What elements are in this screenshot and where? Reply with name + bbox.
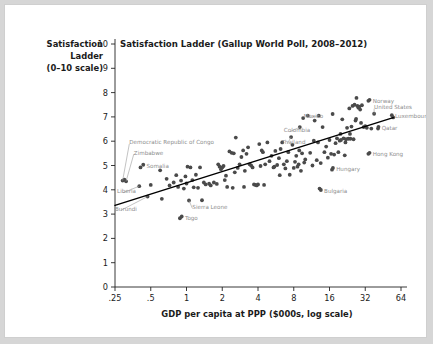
annotation-marker-togo (180, 215, 184, 219)
data-point (222, 164, 226, 168)
x-tick-label-.25: .25 (108, 293, 121, 303)
data-point (348, 132, 352, 136)
annotation-marker-luxembourg (390, 113, 394, 117)
data-point (319, 161, 323, 165)
chart-title: Satisfaction Ladder (Gallup World Poll, … (120, 39, 367, 49)
data-point (198, 166, 202, 170)
annotation-sierra-leone: Sierra Leone (192, 204, 228, 210)
data-point (149, 183, 153, 187)
data-point (352, 137, 356, 141)
annotation-marker-bulgaria (319, 188, 323, 192)
data-point (277, 156, 281, 160)
data-point (294, 154, 298, 158)
y-tick-label-0: 0 (103, 282, 108, 292)
data-point (165, 177, 169, 181)
data-point (355, 96, 359, 100)
data-point (332, 153, 336, 157)
data-point (347, 107, 351, 111)
annotation-marker-hong-kong (368, 151, 372, 155)
annotation-democratic-republic-of-congo: Democratic Republic of Congo (129, 139, 214, 146)
x-tick-label-16: 16 (324, 293, 334, 303)
data-point (300, 151, 304, 155)
data-point (323, 150, 327, 154)
data-point (262, 183, 266, 187)
data-point (242, 185, 246, 189)
y-tick-label-7: 7 (103, 112, 108, 122)
annotation-somalia: Somalia (146, 163, 168, 169)
data-point (200, 198, 204, 202)
data-point (257, 142, 261, 146)
data-point (343, 153, 347, 157)
data-point (139, 166, 143, 170)
annotation-burundi: Burundi (115, 206, 137, 212)
y-tick-label-2: 2 (103, 233, 108, 243)
annotation-marker-norway (368, 98, 372, 102)
data-point (234, 136, 238, 140)
data-point (326, 156, 330, 160)
x-tick-label-64: 64 (396, 293, 406, 303)
figure-frame: Satisfaction Ladder (Gallup World Poll, … (5, 5, 426, 337)
chart-canvas: Satisfaction Ladder (Gallup World Poll, … (5, 5, 426, 337)
data-point (251, 166, 255, 170)
annotation-bulgaria: Bulgaria (324, 188, 347, 195)
data-point (189, 166, 193, 170)
y-axis-label-line-2: Ladder (70, 51, 104, 61)
data-point (297, 149, 301, 153)
data-point (233, 170, 237, 174)
data-point (263, 162, 267, 166)
data-point (168, 184, 172, 188)
y-tick-label-3: 3 (103, 209, 108, 219)
data-point (172, 181, 176, 185)
y-tick-label-4: 4 (103, 185, 108, 195)
data-point (245, 152, 249, 156)
data-point (232, 151, 236, 155)
data-point (279, 147, 283, 151)
data-point (256, 183, 260, 187)
data-point (293, 160, 297, 164)
data-point (282, 162, 286, 166)
data-point (360, 103, 364, 107)
data-point (321, 125, 325, 129)
data-point (324, 145, 328, 149)
annotation-hong-kong: Hong Kong (373, 151, 404, 158)
y-axis-label-line-3: (0–10 scale) (47, 63, 104, 73)
data-point (297, 162, 301, 166)
data-point (243, 169, 247, 173)
data-point (299, 169, 303, 173)
data-point (196, 186, 200, 190)
annotation-qatar: Qatar (382, 125, 398, 131)
data-point (336, 150, 340, 154)
y-tick-label-10: 10 (98, 39, 108, 49)
data-point (192, 185, 196, 189)
data-point (160, 197, 164, 201)
annotation-thailand: Thailand (280, 139, 305, 145)
data-point (315, 158, 319, 162)
annotation-luxembourg: Luxembourg (395, 113, 426, 120)
data-point (344, 141, 348, 145)
annotation-marker-qatar (377, 125, 381, 129)
y-tick-label-8: 8 (103, 88, 108, 98)
data-point (311, 164, 315, 168)
data-point (340, 117, 344, 121)
y-tick-label-1: 1 (103, 258, 108, 268)
annotation-mexico: Mexico (304, 113, 324, 119)
data-point (273, 165, 277, 169)
y-tick-label-9: 9 (103, 63, 108, 73)
data-point (246, 145, 250, 149)
data-point (292, 166, 296, 170)
data-point (359, 121, 363, 125)
data-point (354, 117, 358, 121)
annotation-united-states: United States (374, 104, 412, 110)
data-point (268, 159, 272, 163)
x-tick-label-4: 4 (255, 293, 260, 303)
data-point (224, 174, 228, 178)
data-point (350, 125, 354, 129)
data-point (283, 167, 287, 171)
data-point (278, 173, 282, 177)
data-point (308, 151, 312, 155)
y-axis-label-line-1: Satisfaction (47, 39, 103, 49)
data-point (273, 149, 277, 153)
data-point (334, 141, 338, 145)
data-point (358, 108, 362, 112)
x-axis-label: GDP per capita at PPP ($000s, log scale) (161, 309, 352, 319)
